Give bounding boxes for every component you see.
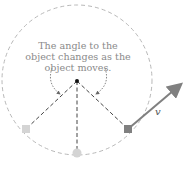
- past-object-bottom: [73, 149, 82, 158]
- current-object-right: [124, 125, 132, 133]
- velocity-arrow: [128, 85, 180, 129]
- velocity-label: v: [155, 106, 161, 117]
- sightline-left: [26, 81, 77, 129]
- center-point: [75, 79, 79, 83]
- past-object-left: [22, 125, 30, 133]
- diagram-canvas: [0, 0, 189, 171]
- caption-text: The angle to the object changes as the o…: [22, 40, 134, 73]
